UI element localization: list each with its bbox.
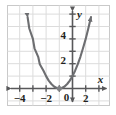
y-tick-label-4: 4	[61, 29, 67, 41]
parabola-plot: −4 −2 2 2 4 0 x y	[0, 0, 116, 115]
x-tick-label--2: −2	[40, 92, 52, 104]
origin-label: 0	[64, 91, 70, 103]
vertex-point	[57, 86, 62, 91]
x-tick-label-2: 2	[83, 92, 89, 104]
x-axis-label: x	[97, 73, 104, 85]
y-axis-label: y	[75, 8, 82, 20]
graph-figure: −4 −2 2 2 4 0 x y	[0, 0, 116, 115]
x-tick-label--4: −4	[14, 92, 26, 104]
y-tick-label-2: 2	[61, 54, 67, 66]
